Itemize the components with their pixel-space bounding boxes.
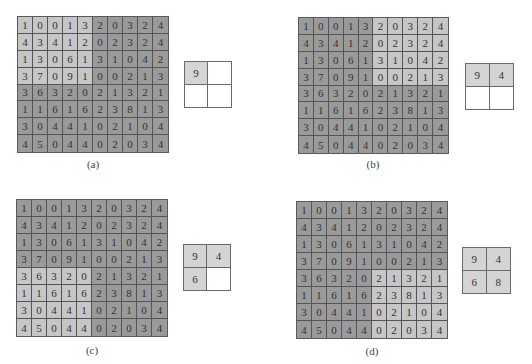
matrix-cell: 0 [327, 253, 342, 270]
matrix-cell: 3 [152, 285, 167, 302]
matrix-cell: 0 [48, 135, 63, 152]
matrix-cell: 2 [373, 18, 388, 35]
matrix-cell: 1 [433, 86, 448, 103]
matrix-cell: 3 [418, 136, 433, 153]
matrix-cell: 6 [357, 287, 372, 304]
matrix-cell: 2 [372, 270, 387, 287]
matrix-cell: 0 [123, 135, 138, 152]
matrix-cell: 2 [153, 51, 168, 68]
matrix-cell: 2 [92, 268, 107, 285]
matrix-cell: 1 [32, 285, 47, 302]
matrix-cell: 4 [152, 217, 167, 234]
input-matrix: 1001320324434120232413061310423709100213… [298, 17, 449, 154]
matrix-cell: 8 [122, 285, 137, 302]
matrix-cell: 9 [344, 69, 359, 86]
matrix-cell: 0 [418, 119, 433, 136]
matrix-cell: 1 [152, 268, 167, 285]
matrix-cell: 0 [372, 321, 387, 338]
matrix-cell: 0 [93, 68, 108, 85]
matrix-cell: 0 [92, 217, 107, 234]
matrix-cell: 2 [357, 219, 372, 236]
matrix-cell: 1 [432, 270, 447, 287]
matrix-cell: 3 [359, 18, 374, 35]
matrix-cell: 4 [17, 217, 32, 234]
matrix-cell: 6 [342, 236, 357, 253]
matrix-cell: 0 [122, 319, 137, 336]
matrix-cell: 0 [388, 69, 403, 86]
matrix-cell: 1 [359, 52, 374, 69]
matrix-cell: 0 [329, 69, 344, 86]
matrix-cell: 0 [403, 52, 418, 69]
matrix-cell: 0 [92, 251, 107, 268]
pool-cell [490, 87, 514, 110]
matrix-cell: 1 [18, 101, 33, 118]
matrix-cell: 0 [417, 304, 432, 321]
matrix-cell: 4 [63, 135, 78, 152]
matrix-cell: 2 [93, 85, 108, 102]
matrix-cell: 4 [47, 302, 62, 319]
matrix-cell: 1 [123, 118, 138, 135]
matrix-cell: 6 [359, 102, 374, 119]
pool-cell: 9 [463, 248, 487, 271]
matrix-cell: 1 [417, 253, 432, 270]
pool-cell: 9 [185, 62, 208, 85]
matrix-cell: 4 [297, 321, 312, 338]
matrix-cell: 0 [373, 69, 388, 86]
matrix-cell: 2 [138, 34, 153, 51]
matrix-cell: 3 [432, 287, 447, 304]
pool-cell: 4 [490, 64, 514, 87]
matrix-cell: 1 [359, 119, 374, 136]
matrix-cell: 3 [387, 287, 402, 304]
matrix-cell: 3 [312, 236, 327, 253]
matrix-cell: 1 [418, 69, 433, 86]
matrix-cell: 1 [297, 287, 312, 304]
matrix-cell: 9 [342, 253, 357, 270]
matrix-cell: 3 [47, 268, 62, 285]
matrix-cell: 7 [32, 251, 47, 268]
matrix-cell: 4 [433, 136, 448, 153]
matrix-cell: 0 [137, 302, 152, 319]
matrix-cell: 0 [47, 234, 62, 251]
matrix-cell: 1 [344, 102, 359, 119]
matrix-cell: 1 [417, 287, 432, 304]
matrix-cell: 3 [402, 219, 417, 236]
pool-cell: 4 [487, 248, 511, 271]
matrix-cell: 0 [327, 236, 342, 253]
matrix-cell: 1 [344, 18, 359, 35]
matrix-cell: 3 [78, 17, 93, 34]
matrix-cell: 3 [137, 319, 152, 336]
matrix-cell: 3 [122, 268, 137, 285]
caption-d: (d) [342, 345, 402, 357]
matrix-cell: 1 [62, 217, 77, 234]
matrix-cell: 3 [373, 52, 388, 69]
pool-cell: 4 [207, 245, 230, 268]
matrix-cell: 3 [433, 69, 448, 86]
matrix-cell: 0 [359, 86, 374, 103]
matrix-cell: 4 [417, 236, 432, 253]
matrix-cell: 4 [48, 34, 63, 51]
matrix-cell: 1 [299, 18, 314, 35]
matrix-cell: 2 [77, 217, 92, 234]
matrix-cell: 4 [432, 202, 447, 219]
matrix-cell: 3 [93, 51, 108, 68]
matrix-cell: 1 [78, 118, 93, 135]
matrix-cell: 3 [33, 51, 48, 68]
matrix-cell: 6 [344, 52, 359, 69]
matrix-cell: 1 [357, 304, 372, 321]
matrix-cell: 4 [342, 304, 357, 321]
matrix-cell: 0 [32, 200, 47, 217]
matrix-cell: 4 [153, 135, 168, 152]
matrix-cell: 3 [122, 217, 137, 234]
matrix-cell: 3 [153, 68, 168, 85]
matrix-cell: 1 [62, 200, 77, 217]
matrix-cell: 3 [153, 101, 168, 118]
matrix-cell: 0 [78, 85, 93, 102]
matrix-cell: 4 [152, 200, 167, 217]
matrix-cell: 3 [48, 85, 63, 102]
matrix-cell: 4 [152, 319, 167, 336]
matrix-cell: 7 [33, 68, 48, 85]
matrix-cell: 0 [122, 234, 137, 251]
matrix-cell: 3 [123, 17, 138, 34]
matrix-cell: 0 [92, 302, 107, 319]
matrix-cell: 6 [47, 285, 62, 302]
